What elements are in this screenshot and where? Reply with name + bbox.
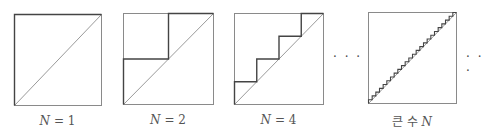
caption-prefix: 큰 수 bbox=[392, 115, 422, 129]
staircase-figure: N = 1 N = 2 N = 4 큰 수 N · · · · · · bbox=[0, 0, 493, 134]
caption-large-n: 큰 수 N bbox=[368, 112, 456, 129]
caption-variable: N bbox=[422, 115, 433, 129]
ellipsis-middle: · · · bbox=[333, 50, 362, 64]
ellipsis-end: · · · bbox=[466, 50, 493, 78]
